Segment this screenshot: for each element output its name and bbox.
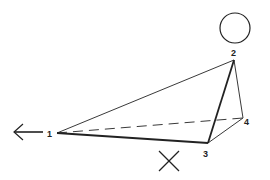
label-point-1: 1 <box>47 129 52 139</box>
label-point-2: 2 <box>231 48 236 58</box>
label-point-4: 4 <box>244 117 249 127</box>
edge-1-4-hidden <box>57 118 243 133</box>
edge-1-2 <box>57 60 234 133</box>
edge-1-3 <box>57 133 208 143</box>
left-arrow-icon <box>14 124 43 140</box>
pyramid-diagram: 1 2 3 4 <box>0 0 270 180</box>
label-point-3: 3 <box>203 149 208 159</box>
edge-2-3 <box>208 60 234 143</box>
circle-symbol <box>220 13 250 43</box>
edge-2-4 <box>234 60 243 118</box>
edge-3-4 <box>208 118 243 143</box>
cross-symbol <box>159 151 179 171</box>
